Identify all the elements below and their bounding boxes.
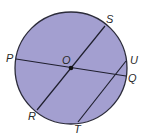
center-point [69, 66, 74, 71]
label-q: Q [128, 72, 137, 84]
label-t: T [74, 123, 82, 135]
circle-diagram: O P Q S R U T [0, 0, 149, 135]
label-o: O [62, 54, 71, 66]
label-s: S [106, 13, 114, 25]
label-r: R [28, 110, 36, 122]
label-p: P [6, 52, 14, 64]
label-u: U [130, 54, 138, 66]
